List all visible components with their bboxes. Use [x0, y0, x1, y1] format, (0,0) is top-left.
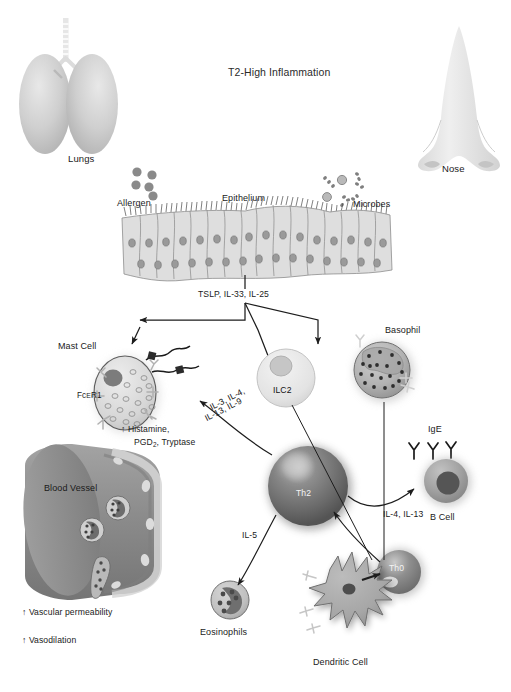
mast-mediators-line1: ↑ Histamine, [121, 424, 169, 434]
microbes-label: Microbes [353, 199, 390, 210]
nose-label: Nose [442, 163, 465, 175]
mast-cell-illustration [92, 346, 199, 434]
figure-title: T2-High Inflammation [228, 66, 330, 79]
lungs-label: Lungs [68, 153, 94, 165]
ilc2-label: ILC2 [273, 385, 292, 395]
allergen-label: Allergen [117, 198, 151, 209]
basophil-illustration [354, 335, 414, 402]
th2-label: Th2 [296, 488, 311, 498]
lungs-illustration [19, 18, 118, 154]
nose-illustration [418, 26, 500, 171]
figure-canvas: T2-High Inflammation Lungs Nose Allergen… [0, 0, 511, 692]
vasodilation-label: ↑ Vasodilation [22, 635, 76, 645]
basophil-label: Basophil [385, 325, 420, 336]
blood-vessel-illustration [16, 440, 160, 600]
mast-cell-label: Mast Cell [58, 341, 96, 352]
ilc2-illustration [257, 349, 315, 407]
cytokine-il5-label: IL-5 [242, 530, 257, 540]
eosinophils-label: Eosinophils [200, 627, 247, 638]
ige-label: IgE [428, 424, 442, 435]
dendritic-cell-label: Dendritic Cell [313, 657, 368, 668]
allergen-particles [131, 167, 157, 200]
blood-vessel-label: Blood Vessel [44, 483, 97, 494]
ige-antibodies [409, 442, 456, 459]
mast-mediators-line2: PGD2, Tryptase [134, 437, 195, 449]
epithelium-layer [122, 196, 392, 281]
b-cell-label: B Cell [430, 512, 455, 523]
alarmins-label: TSLP, IL-33, IL-25 [198, 289, 269, 299]
fcer1-label: FcER1 [77, 391, 102, 401]
b-cell-illustration [423, 458, 471, 506]
cytokines-to-bcell-label: IL-4, IL-13 [383, 509, 423, 519]
epithelium-label: Epithelium [222, 193, 265, 204]
vascular-permeability-label: ↑ Vascular permeability [22, 607, 113, 617]
eosinophils-illustration [211, 581, 249, 619]
th0-label: Th0 [389, 563, 404, 573]
